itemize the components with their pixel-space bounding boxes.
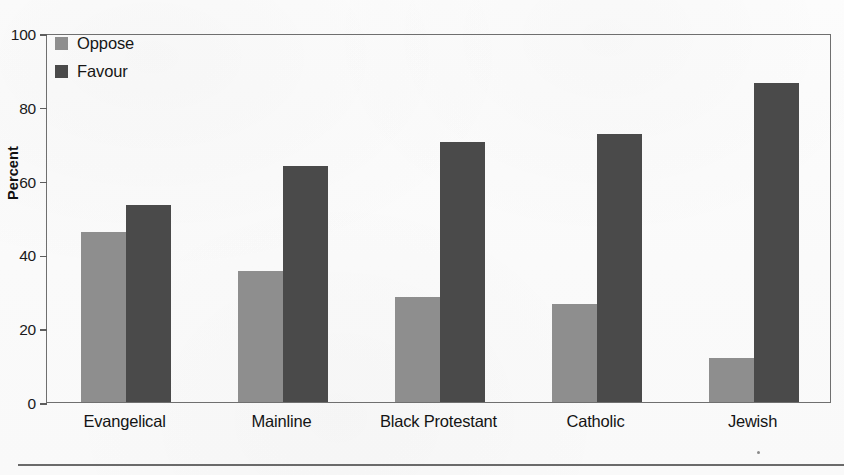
- y-axis-tick: 0: [28, 395, 47, 413]
- bar-favour: [283, 166, 328, 402]
- legend-swatch-icon: [55, 65, 68, 78]
- bar-group: [552, 35, 642, 402]
- y-axis-tick-mark: [40, 329, 47, 330]
- bar-favour: [126, 205, 171, 402]
- legend-label: Favour: [77, 62, 128, 81]
- legend-entry: Favour: [55, 62, 134, 81]
- y-axis-tick: 80: [19, 100, 47, 118]
- y-axis-tick: 20: [19, 321, 47, 339]
- y-axis-tick-label: 40: [19, 247, 40, 265]
- bar-favour: [597, 134, 642, 402]
- bar-group: [81, 35, 171, 402]
- bar-favour: [440, 142, 485, 402]
- x-axis-label: Mainline: [252, 412, 312, 431]
- legend-swatch-icon: [55, 37, 68, 50]
- legend-label: Oppose: [77, 34, 134, 53]
- bars-layer: [47, 35, 830, 402]
- y-axis-tick-mark: [40, 108, 47, 109]
- bar-favour: [754, 83, 799, 402]
- x-axis-label: Catholic: [566, 412, 624, 431]
- y-axis-tick-mark: [40, 182, 47, 183]
- chart-legend: OpposeFavour: [55, 34, 134, 81]
- y-axis-tick-label: 100: [11, 26, 40, 44]
- y-axis-tick: 40: [19, 247, 47, 265]
- bar-oppose: [709, 358, 754, 402]
- bar-oppose: [395, 297, 440, 402]
- y-axis-tick-mark: [40, 256, 47, 257]
- y-axis-tick-label: 80: [19, 100, 40, 118]
- y-axis-tick-label: 0: [28, 395, 40, 413]
- bar-oppose: [81, 232, 126, 402]
- y-axis-tick-label: 60: [19, 174, 40, 192]
- x-axis-labels: EvangelicalMainlineBlack ProtestantCatho…: [46, 412, 831, 436]
- bar-chart-figure: Percent 100806040200 OpposeFavour Evange…: [0, 0, 844, 475]
- legend-entry: Oppose: [55, 34, 134, 53]
- y-axis-tick-mark: [40, 34, 47, 35]
- y-axis-tick: 60: [19, 174, 47, 192]
- y-axis-tick-mark: [40, 403, 47, 404]
- bar-group: [238, 35, 328, 402]
- bar-group: [395, 35, 485, 402]
- bar-oppose: [238, 271, 283, 402]
- x-axis-label: Evangelical: [83, 412, 165, 431]
- y-axis-tick-label: 20: [19, 321, 40, 339]
- x-axis-label: Black Protestant: [380, 412, 497, 431]
- paper-speck: [757, 451, 760, 454]
- x-axis-label: Jewish: [728, 412, 777, 431]
- bottom-divider: [18, 464, 844, 466]
- plot-area: 100806040200: [46, 34, 831, 403]
- bar-oppose: [552, 304, 597, 402]
- y-axis-tick: 100: [11, 26, 47, 44]
- bar-group: [709, 35, 799, 402]
